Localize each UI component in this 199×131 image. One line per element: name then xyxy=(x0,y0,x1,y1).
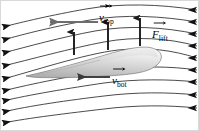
airfoil-lift-figure: vtop Flift vbot xyxy=(0,0,199,131)
label-v-bot-subscript: bot xyxy=(117,80,127,89)
label-v-top-subscript: top xyxy=(104,17,114,26)
label-f-lift: Flift xyxy=(152,25,168,41)
label-v-bot: vbot xyxy=(112,71,127,87)
label-f-lift-base: F xyxy=(152,29,159,40)
label-v-top: vtop xyxy=(99,8,114,24)
label-f-lift-subscript: lift xyxy=(159,34,168,43)
